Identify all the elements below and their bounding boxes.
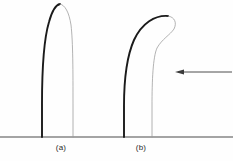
- load-arrow-head-icon: [175, 69, 184, 74]
- load-arrow: [175, 69, 232, 74]
- column-b-thick-limb: [124, 16, 168, 137]
- column-a-thick-limb: [42, 4, 60, 137]
- column-b-thin-limb: [152, 16, 175, 137]
- figure-canvas: [0, 0, 233, 161]
- column-a-thin-limb: [60, 4, 73, 137]
- buckled-column-a: [42, 4, 73, 137]
- caption-b: (b): [128, 143, 154, 152]
- figure-container: (a) (b): [0, 0, 233, 161]
- caption-a: (a): [48, 143, 74, 152]
- buckled-column-b: [124, 16, 175, 137]
